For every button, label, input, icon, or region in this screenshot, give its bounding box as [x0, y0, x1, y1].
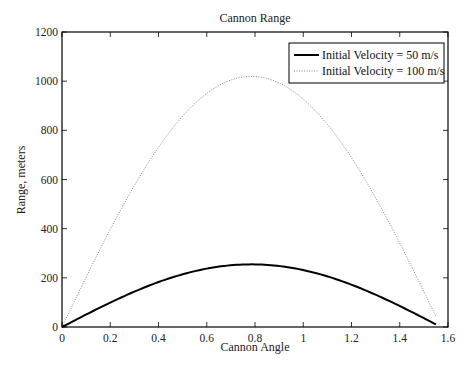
y-tick-label: 200	[41, 272, 59, 284]
y-tick-label: 600	[41, 174, 59, 186]
legend: Initial Velocity = 50 m/s Initial Veloci…	[289, 43, 445, 83]
x-tick-label: 0.4	[151, 332, 166, 344]
chart-title: Cannon Range	[220, 11, 291, 25]
x-tick-label: 1	[300, 332, 306, 344]
x-tick-label: 1.6	[441, 332, 456, 344]
x-tick-label: 0.6	[200, 332, 215, 344]
cannon-range-chart: Cannon Range 00.20.40.60.811.21.41.6 020…	[0, 0, 475, 372]
y-tick-label: 800	[41, 124, 59, 136]
y-tick-label: 1200	[35, 26, 58, 38]
y-tick-label: 1000	[35, 75, 58, 87]
y-tick-label: 0	[52, 321, 58, 333]
y-tick-label: 400	[41, 223, 59, 235]
legend-entry-100ms: Initial Velocity = 100 m/s	[322, 64, 445, 78]
x-tick-label: 0	[59, 332, 65, 344]
x-tick-label: 0.2	[103, 332, 118, 344]
legend-entry-50ms: Initial Velocity = 50 m/s	[322, 48, 439, 62]
x-axis-label: Cannon Angle	[221, 340, 290, 354]
x-tick-label: 1.4	[393, 332, 408, 344]
y-axis-label: Range, meters	[14, 145, 28, 214]
x-tick-label: 1.2	[344, 332, 359, 344]
